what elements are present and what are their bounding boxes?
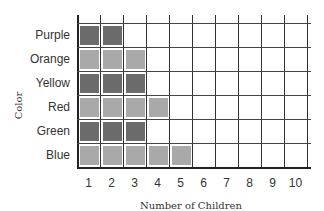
data-square [80, 26, 99, 45]
grid-hline [77, 143, 311, 144]
data-square [80, 74, 99, 93]
y-axis [77, 15, 79, 168]
data-square [126, 50, 145, 69]
data-square [103, 50, 122, 69]
grid-hline [77, 71, 311, 72]
row-label: Blue [10, 148, 70, 162]
data-square [126, 98, 145, 117]
data-square [103, 98, 122, 117]
x-tick: 2 [100, 176, 123, 190]
row-label: Purple [10, 28, 70, 42]
grid-vline [284, 15, 285, 167]
data-square [80, 122, 99, 141]
data-square [103, 122, 122, 141]
grid-vline [123, 15, 124, 167]
grid-hline [77, 119, 311, 120]
grid-hline [77, 95, 311, 96]
x-tick: 5 [169, 176, 192, 190]
data-square [149, 98, 168, 117]
grid-vline [215, 15, 216, 167]
grid-hline [77, 47, 311, 48]
grid-vline [307, 15, 308, 167]
grid-vline [100, 15, 101, 167]
data-square [80, 146, 99, 165]
data-square [103, 146, 122, 165]
row-label: Orange [10, 52, 70, 66]
data-square [103, 74, 122, 93]
x-tick: 4 [146, 176, 169, 190]
row-label: Yellow [10, 76, 70, 90]
grid-vline [169, 15, 170, 167]
x-tick: 10 [284, 176, 307, 190]
x-axis-title: Number of Children [140, 200, 242, 211]
grid-vline [261, 15, 262, 167]
grid-vline [238, 15, 239, 167]
data-square [103, 26, 122, 45]
x-tick: 6 [192, 176, 215, 190]
data-square [80, 50, 99, 69]
x-tick: 3 [123, 176, 146, 190]
x-tick: 1 [77, 176, 100, 190]
grid-hline [77, 23, 311, 24]
data-square [126, 74, 145, 93]
data-square [126, 122, 145, 141]
data-square [172, 146, 191, 165]
grid-vline [192, 15, 193, 167]
x-tick: 7 [215, 176, 238, 190]
chart-grid [77, 23, 307, 167]
x-tick: 8 [238, 176, 261, 190]
x-tick: 9 [261, 176, 284, 190]
x-axis [77, 167, 311, 169]
data-square [80, 98, 99, 117]
data-square [149, 146, 168, 165]
data-square [126, 146, 145, 165]
grid-vline [146, 15, 147, 167]
row-label: Green [10, 124, 70, 138]
row-label: Red [10, 100, 70, 114]
